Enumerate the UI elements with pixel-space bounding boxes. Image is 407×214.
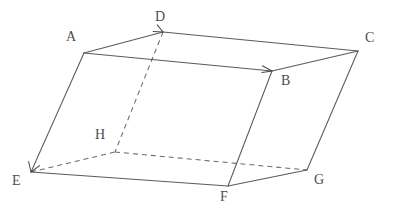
vertex-label-E: E bbox=[12, 174, 21, 188]
edge-AE bbox=[31, 53, 84, 172]
edge-BF bbox=[228, 71, 272, 186]
arrowhead-ae-icon bbox=[29, 162, 40, 173]
edge-AB bbox=[84, 53, 272, 71]
arrowheads-group bbox=[29, 25, 272, 172]
edge-EF bbox=[31, 172, 228, 186]
vertex-label-F: F bbox=[220, 190, 228, 204]
vertex-label-D: D bbox=[155, 10, 165, 24]
edge-AD bbox=[84, 32, 163, 53]
vertex-label-C: C bbox=[365, 31, 374, 45]
vertex-label-G: G bbox=[314, 173, 324, 187]
edge-CG bbox=[307, 51, 358, 170]
edge-FG bbox=[228, 170, 307, 186]
parallelepiped-diagram bbox=[0, 0, 407, 214]
vertex-label-H: H bbox=[95, 128, 105, 142]
edge-EH bbox=[31, 152, 115, 172]
edge-BC bbox=[272, 51, 358, 71]
figure-canvas: A B C D E F G H bbox=[0, 0, 407, 214]
edge-DC bbox=[163, 32, 358, 51]
vertex-label-B: B bbox=[281, 74, 290, 88]
arrowhead-ab-icon bbox=[262, 66, 272, 73]
hidden-edges-group bbox=[31, 32, 307, 172]
arrowhead-ad-icon bbox=[153, 25, 163, 32]
edge-DH bbox=[115, 32, 163, 152]
visible-edges-group bbox=[31, 32, 358, 186]
vertex-label-A: A bbox=[66, 30, 76, 44]
edge-HG bbox=[115, 152, 307, 170]
